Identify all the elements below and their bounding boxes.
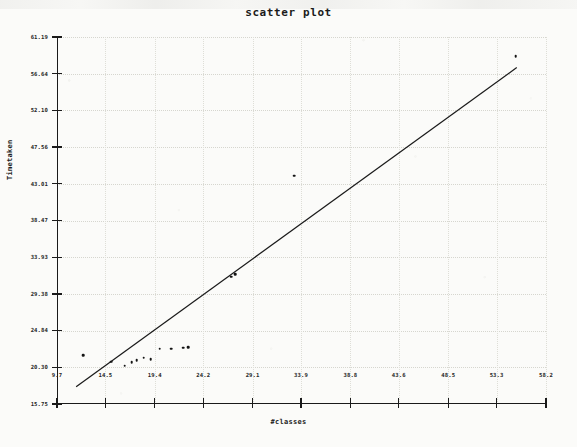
y-tick-label: 56.64: [31, 71, 48, 77]
x-tick-label: 53.3: [490, 372, 504, 378]
scatter-point: [170, 347, 173, 350]
y-tick-label: 29.38: [31, 291, 48, 297]
x-tick-label: 58.2: [539, 372, 553, 378]
scatter-point: [149, 358, 152, 361]
trend-line: [57, 37, 546, 404]
y-tick-label: 61.19: [31, 34, 48, 40]
scatter-point: [293, 175, 296, 178]
x-tick-label: 24.2: [196, 372, 210, 378]
x-tick-label: 33.9: [294, 372, 308, 378]
x-tick-label: 9.7: [52, 372, 62, 378]
x-tick-label: 48.5: [441, 372, 455, 378]
y-axis-title: Timetaken: [6, 139, 14, 180]
scatter-point: [110, 360, 113, 363]
y-tick-label: 47.56: [31, 144, 48, 150]
y-tick-label: 43.01: [31, 181, 48, 187]
plot-area: [57, 37, 546, 404]
y-tick-label: 24.84: [31, 327, 48, 333]
y-tick-label: 20.30: [31, 364, 48, 370]
trend-line-segment: [76, 68, 517, 387]
x-tick-label: 38.8: [343, 372, 357, 378]
chart-title: scatter plot: [0, 6, 577, 19]
y-axis-title-text: Timetaken: [6, 139, 14, 180]
y-tick-label: 15.75: [31, 401, 48, 407]
y-tick-label: 33.93: [31, 254, 48, 260]
scatter-point: [159, 347, 162, 350]
x-tick-label: 43.6: [392, 372, 406, 378]
scatter-point: [123, 364, 126, 367]
x-axis-title: #classes: [0, 418, 577, 426]
scatter-point: [187, 346, 190, 349]
scatter-point: [142, 356, 145, 359]
scatter-point: [130, 361, 133, 364]
scatter-point: [234, 273, 237, 276]
scatter-point: [182, 347, 185, 350]
x-tick-label: 19.4: [148, 372, 162, 378]
y-tick-label: 38.47: [31, 217, 48, 223]
x-tick-label: 29.1: [246, 372, 260, 378]
x-tick-label: 14.5: [98, 372, 112, 378]
scatter-plot-figure: scatter plot Timetaken #classes 15.7520.…: [0, 0, 577, 447]
scatter-point: [514, 55, 517, 58]
scatter-point: [135, 359, 138, 362]
y-tick-label: 52.10: [31, 107, 48, 113]
scatter-point: [82, 354, 85, 357]
scatter-point: [230, 275, 233, 278]
gridline-vertical: [546, 37, 547, 404]
